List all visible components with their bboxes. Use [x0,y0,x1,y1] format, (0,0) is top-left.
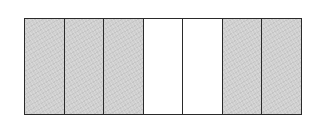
fraction-bar [24,18,302,115]
shaded-segment [262,19,301,114]
shaded-segment [223,19,263,114]
shaded-segment [25,19,65,114]
unshaded-segment [144,19,184,114]
shaded-segment [65,19,105,114]
shaded-segment [104,19,144,114]
unshaded-segment [183,19,223,114]
diagram-canvas [0,0,324,129]
